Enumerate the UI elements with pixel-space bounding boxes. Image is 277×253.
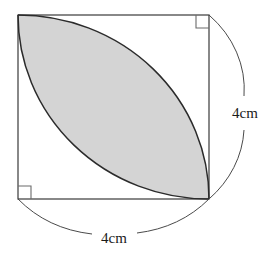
dimension-arc-bottom-right: [137, 199, 209, 233]
right-angle-top-right: [196, 15, 209, 28]
geometry-figure: 4cm 4cm: [0, 0, 277, 253]
shaded-lens: [18, 15, 209, 199]
dimension-label-right: 4cm: [232, 105, 258, 121]
dimension-arc-right-lower: [209, 130, 244, 199]
dimension-arc-right-upper: [209, 15, 244, 96]
geometry-canvas: 4cm 4cm: [0, 0, 277, 253]
right-angle-bottom-left: [18, 186, 31, 199]
dimension-arc-bottom-left: [18, 199, 92, 234]
dimension-label-bottom: 4cm: [101, 230, 127, 246]
